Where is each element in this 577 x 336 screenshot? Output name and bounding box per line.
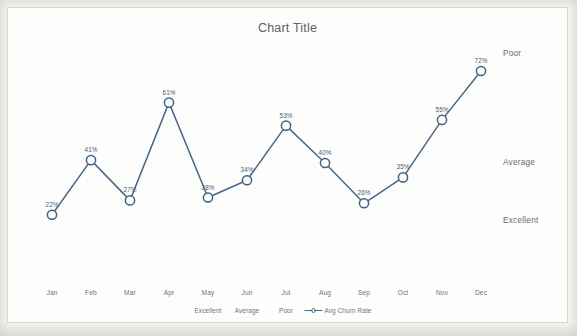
legend-label: Average [235, 307, 260, 314]
legend-item-avg-churn-rate[interactable]: Avg Churn Rate [304, 307, 371, 314]
legend-item-average[interactable]: Average [235, 307, 260, 314]
data-point-label: 35% [397, 163, 410, 170]
legend-line-marker-icon [304, 307, 322, 314]
legend-item-poor[interactable]: Poor [279, 307, 293, 314]
chart-title: Chart Title [8, 21, 567, 35]
data-point-marker [437, 115, 446, 124]
data-point-label: 55% [436, 106, 449, 113]
x-axis-tick-feb: Feb [85, 289, 97, 296]
data-point-label: 27% [124, 186, 137, 193]
legend-label: Excellent [194, 307, 221, 314]
plot-area: 22%41%27%61%28%34%53%40%26%35%55%72% Poo… [26, 48, 551, 278]
x-axis-tick-jun: Jun [241, 289, 252, 296]
x-axis-tick-apr: Apr [164, 289, 175, 296]
x-axis-tick-oct: Oct [398, 289, 409, 296]
zone-label-excellent: Excellent [503, 216, 538, 225]
data-point-marker [125, 196, 134, 205]
data-point-marker [320, 158, 329, 167]
data-point-marker [476, 66, 485, 75]
series-line-avg-churn-rate [52, 71, 481, 215]
data-point-marker [359, 199, 368, 208]
x-axis-tick-may: May [202, 289, 215, 296]
data-point-marker [398, 173, 407, 182]
chart-card: Chart Title 22%41%27%61%28%34%53%40%26%3… [7, 7, 568, 323]
line-chart-svg [26, 48, 551, 278]
data-point-label: 26% [358, 189, 371, 196]
data-point-label: 72% [475, 57, 488, 64]
data-point-marker [164, 98, 173, 107]
data-point-label: 34% [241, 166, 254, 173]
x-axis-tick-jul: Jul [282, 289, 291, 296]
x-axis-tick-jan: Jan [46, 289, 57, 296]
x-axis-tick-dec: Dec [475, 289, 487, 296]
data-point-marker [203, 193, 212, 202]
zone-label-average: Average [503, 158, 535, 167]
data-point-label: 28% [202, 184, 215, 191]
legend-label: Avg Churn Rate [324, 307, 371, 314]
x-axis-tick-mar: Mar [124, 289, 136, 296]
chart-legend: ExcellentAveragePoorAvg Churn Rate [26, 307, 551, 321]
series-markers [47, 66, 485, 219]
data-point-label: 41% [85, 146, 98, 153]
data-point-marker [47, 210, 56, 219]
data-point-marker [242, 176, 251, 185]
x-axis-tick-nov: Nov [436, 289, 448, 296]
zone-label-poor: Poor [503, 49, 521, 58]
data-point-label: 22% [46, 201, 59, 208]
x-axis-labels: JanFebMarAprMayJunJulAugSepOctNovDec [26, 289, 551, 303]
data-point-marker [281, 121, 290, 130]
legend-item-excellent[interactable]: Excellent [194, 307, 221, 314]
data-point-marker [86, 156, 95, 165]
legend-label: Poor [279, 307, 293, 314]
data-point-label: 40% [319, 149, 332, 156]
data-point-label: 53% [280, 112, 293, 119]
x-axis-tick-sep: Sep [358, 289, 370, 296]
data-point-label: 61% [163, 89, 176, 96]
x-axis-tick-aug: Aug [319, 289, 331, 296]
screenshot-root: Chart Title 22%41%27%61%28%34%53%40%26%3… [0, 0, 577, 336]
